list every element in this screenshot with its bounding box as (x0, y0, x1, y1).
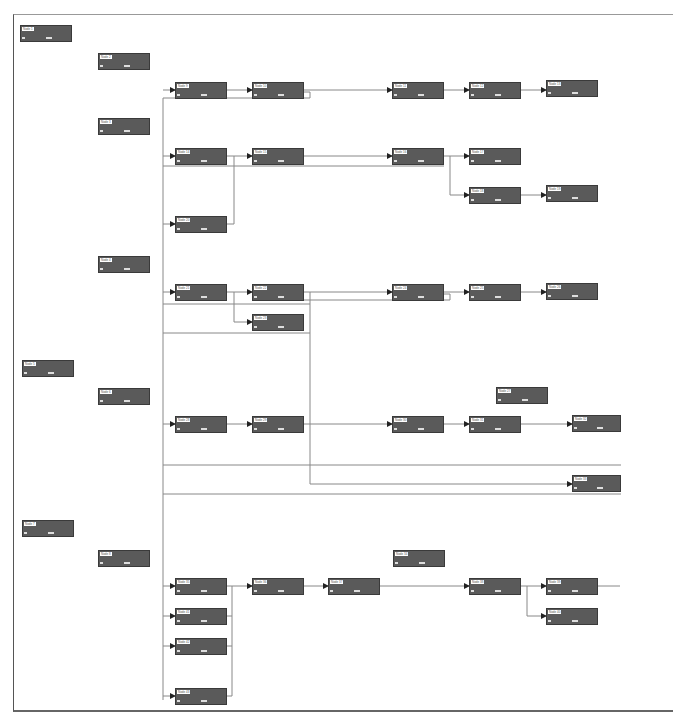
diagram-node[interactable]: Node 36 (252, 578, 304, 595)
node-label: Node 33 (574, 477, 587, 481)
node-field-right (278, 326, 284, 328)
diagram-node[interactable]: Node 40 (546, 608, 598, 625)
node-field-right (278, 428, 284, 430)
node-field-right (201, 228, 207, 230)
node-field-right (124, 65, 130, 67)
diagram-node[interactable]: Node 13 (546, 80, 598, 97)
diagram-node[interactable]: Node 9 (175, 82, 227, 99)
node-label: Node 41 (177, 610, 190, 614)
diagram-node[interactable]: Node 26 (546, 283, 598, 300)
diagram-node[interactable]: Node 5 (22, 360, 74, 377)
diagram-node[interactable]: Node 25 (469, 284, 521, 301)
node-field-left (177, 228, 180, 230)
node-field-right (46, 37, 52, 39)
node-label: Node 16 (394, 150, 407, 154)
diagram-node[interactable]: Node 4 (98, 256, 150, 273)
diagram-node[interactable]: Node 35 (175, 578, 227, 595)
diagram-node[interactable]: Node 1 (20, 25, 72, 42)
node-label: Node 13 (548, 82, 561, 86)
diagram-node[interactable]: Node 41 (175, 608, 227, 625)
node-label: Node 23 (254, 316, 267, 320)
diagram-node[interactable]: Node 18 (469, 187, 521, 204)
diagram-node[interactable]: Node 42 (175, 638, 227, 655)
diagram-node[interactable]: Node 15 (252, 148, 304, 165)
node-label: Node 32 (574, 417, 587, 421)
node-field-right (201, 590, 207, 592)
diagram-node[interactable]: Node 19 (546, 185, 598, 202)
diagram-node[interactable]: Node 2 (98, 53, 150, 70)
diagram-node[interactable]: Node 29 (252, 416, 304, 433)
node-field-right (278, 160, 284, 162)
node-field-left (254, 296, 257, 298)
node-field-right (278, 296, 284, 298)
diagram-node[interactable]: Node 24 (392, 284, 444, 301)
diagram-node[interactable]: Node 21 (175, 284, 227, 301)
node-field-left (24, 532, 27, 534)
diagram-node[interactable]: Node 31 (469, 416, 521, 433)
node-field-left (254, 94, 257, 96)
diagram-node[interactable]: Node 8 (98, 550, 150, 567)
node-field-right (48, 532, 54, 534)
diagram-node[interactable]: Node 37 (328, 578, 380, 595)
diagram-node[interactable]: Node 38 (469, 578, 521, 595)
node-label: Node 38 (471, 580, 484, 584)
node-label: Node 21 (177, 286, 190, 290)
diagram-node[interactable]: Node 30 (392, 416, 444, 433)
diagram-node[interactable]: Node 33 (572, 475, 621, 492)
node-field-left (548, 92, 551, 94)
diagram-node[interactable]: Node 34 (393, 550, 445, 567)
diagram-node[interactable]: Node 23 (252, 314, 304, 331)
node-field-right (124, 130, 130, 132)
diagram-node[interactable]: Node 12 (469, 82, 521, 99)
diagram-node[interactable]: Node 39 (546, 578, 598, 595)
node-label: Node 17 (471, 150, 484, 154)
diagram-node[interactable]: Node 28 (175, 416, 227, 433)
node-field-left (254, 160, 257, 162)
node-field-left (100, 400, 103, 402)
node-label: Node 1 (22, 27, 34, 31)
node-label: Node 6 (100, 390, 112, 394)
diagram-node[interactable]: Node 16 (392, 148, 444, 165)
node-label: Node 29 (254, 418, 267, 422)
diagram-node[interactable]: Node 32 (572, 415, 621, 432)
diagram-node[interactable]: Node 3 (98, 118, 150, 135)
node-label: Node 43 (177, 690, 190, 694)
diagram-node[interactable]: Node 10 (252, 82, 304, 99)
node-label: Node 28 (177, 418, 190, 422)
node-field-right (278, 94, 284, 96)
node-field-right (48, 372, 54, 374)
node-field-right (495, 199, 501, 201)
node-label: Node 42 (177, 640, 190, 644)
node-label: Node 35 (177, 580, 190, 584)
diagram-node[interactable]: Node 7 (22, 520, 74, 537)
diagram-node[interactable]: Node 22 (252, 284, 304, 301)
node-label: Node 37 (330, 580, 343, 584)
diagram-node[interactable]: Node 6 (98, 388, 150, 405)
diagram-node[interactable]: Node 17 (469, 148, 521, 165)
node-field-right (495, 160, 501, 162)
diagram-node[interactable]: Node 20 (175, 216, 227, 233)
node-field-left (177, 620, 180, 622)
node-field-left (394, 296, 397, 298)
node-field-left (254, 326, 257, 328)
node-field-right (597, 487, 603, 489)
node-field-right (201, 160, 207, 162)
node-field-right (495, 428, 501, 430)
node-field-right (495, 296, 501, 298)
diagram-node[interactable]: Node 43 (175, 688, 227, 705)
node-label: Node 5 (24, 362, 36, 366)
node-label: Node 40 (548, 610, 561, 614)
diagram-node[interactable]: Node 14 (175, 148, 227, 165)
node-field-left (471, 296, 474, 298)
node-field-right (572, 590, 578, 592)
node-label: Node 15 (254, 150, 267, 154)
diagram-node[interactable]: Node 11 (392, 82, 444, 99)
node-field-left (100, 65, 103, 67)
node-field-right (201, 94, 207, 96)
node-field-left (330, 590, 333, 592)
node-field-left (177, 94, 180, 96)
diagram-node[interactable]: Node 27 (496, 387, 548, 404)
node-field-left (177, 296, 180, 298)
node-field-right (201, 620, 207, 622)
node-field-left (471, 428, 474, 430)
